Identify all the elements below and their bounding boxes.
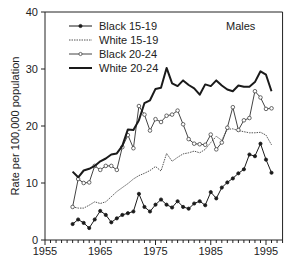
data-point [226, 181, 229, 184]
data-point [154, 203, 157, 206]
data-point [198, 200, 201, 203]
data-point [226, 126, 230, 130]
line-chart: 01020304019551965197519851995 Black 15-1… [0, 0, 294, 268]
data-point [264, 107, 268, 111]
data-point [165, 114, 169, 118]
data-point [71, 222, 74, 225]
data-point [99, 209, 102, 212]
data-point [82, 181, 86, 185]
data-point [209, 133, 213, 137]
data-point [176, 109, 180, 113]
series-line-0 [73, 144, 272, 228]
data-point [237, 128, 241, 132]
data-point [98, 168, 102, 172]
data-point [264, 158, 267, 161]
data-point [214, 148, 218, 152]
x-tick-label: 1975 [143, 245, 167, 257]
data-point [242, 119, 246, 123]
data-point [170, 206, 173, 209]
data-point [198, 142, 202, 146]
data-point [237, 172, 240, 175]
legend-label: Black 20-24 [99, 48, 157, 60]
data-point [259, 96, 263, 100]
data-point [182, 205, 185, 208]
data-point [231, 105, 235, 109]
data-point [126, 212, 129, 215]
data-point [104, 213, 107, 216]
data-point [270, 171, 273, 174]
series-lines [71, 68, 274, 230]
data-point [148, 129, 152, 133]
data-point [192, 142, 196, 146]
x-tick-label: 1985 [199, 245, 223, 257]
series-line-3 [73, 68, 272, 177]
legend-label: White 20-24 [99, 62, 158, 74]
data-point [242, 168, 245, 171]
data-point [115, 168, 119, 172]
data-point [143, 205, 146, 208]
data-point [121, 213, 124, 216]
data-point [270, 107, 274, 111]
x-tick-label: 1995 [254, 245, 278, 257]
data-point [220, 141, 224, 145]
data-point [132, 210, 135, 213]
chart-title: Males [226, 20, 256, 32]
data-point [82, 221, 85, 224]
y-axis-label: Rate per 100,000 population [9, 57, 21, 196]
data-point [71, 205, 75, 209]
data-point [88, 226, 91, 229]
x-tick-label: 1955 [33, 245, 57, 257]
data-point [110, 164, 114, 168]
data-point [209, 191, 212, 194]
x-tick-label: 1965 [88, 245, 112, 257]
data-point [187, 137, 191, 141]
data-point [77, 218, 80, 221]
data-point [248, 116, 252, 120]
data-point [203, 143, 207, 147]
data-point [137, 192, 140, 195]
data-point [165, 203, 168, 206]
data-point [176, 200, 179, 203]
data-point [132, 146, 136, 150]
legend-label: White 15-19 [99, 34, 158, 46]
data-point [204, 204, 207, 207]
data-point [148, 210, 151, 213]
data-point [231, 177, 234, 180]
data-point [137, 104, 141, 108]
data-point [220, 186, 223, 189]
legend-marker [79, 24, 82, 27]
data-point [159, 198, 162, 201]
data-point [181, 122, 185, 126]
data-point [143, 113, 147, 117]
legend: Black 15-19White 15-19Black 20-24White 2… [69, 20, 158, 74]
data-point [115, 217, 118, 220]
legend-label: Black 15-19 [99, 20, 157, 32]
data-point [215, 197, 218, 200]
data-point [253, 155, 256, 158]
data-point [193, 202, 196, 205]
data-point [104, 164, 108, 168]
data-point [170, 113, 174, 117]
series-line-2 [73, 91, 272, 207]
data-point [187, 207, 190, 210]
y-tick-label: 10 [26, 177, 38, 189]
data-point [87, 181, 91, 185]
data-point [110, 221, 113, 224]
y-tick-label: 30 [26, 63, 38, 75]
data-point [253, 89, 257, 93]
y-tick-label: 20 [26, 120, 38, 132]
data-point [154, 117, 158, 121]
data-point [259, 142, 262, 145]
data-point [159, 120, 163, 124]
y-tick-label: 40 [26, 6, 38, 18]
data-point [248, 153, 251, 156]
legend-marker [79, 52, 82, 55]
data-point [93, 218, 96, 221]
